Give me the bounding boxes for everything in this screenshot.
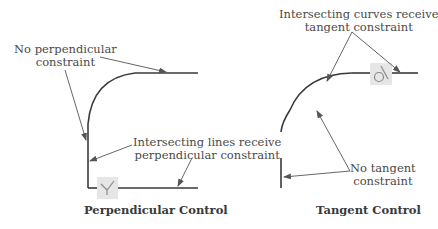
tangent-arc-lower (281, 110, 290, 132)
leader-to-vertical (284, 171, 350, 177)
perpendicular-caption: Perpendicular Control (84, 203, 228, 217)
intersecting-curves-label: Intersecting curves receive tangent cons… (279, 8, 438, 34)
no-tangent-label: No tangent constraint (350, 162, 416, 188)
tangent-leaders (284, 32, 400, 177)
tangent-arc-upper (290, 73, 352, 110)
perpendicular-leaders (65, 57, 192, 186)
leader-intersect-vertical (90, 145, 132, 161)
intersecting-lines-label: Intersecting lines receive perpendicular… (133, 136, 281, 162)
perpendicular-constraint-icon (97, 177, 118, 199)
label-line: constraint (14, 56, 117, 69)
leader-to-vertical-line (65, 70, 86, 140)
leader-to-arc-lower (317, 111, 350, 171)
fillet-arc (88, 73, 135, 124)
label-line: constraint (350, 175, 416, 188)
label-line: tangent constraint (279, 21, 438, 34)
leader-intersect-bottom (178, 158, 192, 186)
label-line: perpendicular constraint (133, 149, 281, 162)
tangent-caption: Tangent Control (316, 203, 421, 217)
no-perpendicular-label: No perpendicular constraint (14, 43, 117, 69)
tangent-constraint-icon (370, 63, 392, 85)
